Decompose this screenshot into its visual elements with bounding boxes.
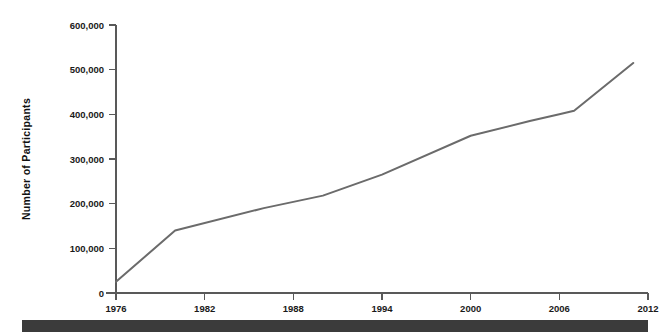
y-tick-label: 300,000	[70, 154, 104, 165]
y-tick-label: 500,000	[70, 64, 104, 75]
x-tick-label: 1988	[283, 303, 304, 314]
y-tick-label: 100,000	[70, 243, 104, 254]
y-axis-title: Number of Participants	[20, 98, 32, 220]
y-tick-label: 200,000	[70, 198, 104, 209]
x-tick-label: 1994	[371, 303, 393, 314]
x-tick-label: 1976	[105, 303, 126, 314]
x-tick-label: 2000	[460, 303, 481, 314]
chart-container: 0100,000200,000300,000400,000500,000600,…	[0, 0, 670, 334]
series-line-participants	[116, 63, 633, 282]
footer-bar	[22, 320, 648, 332]
x-tick-label: 2012	[637, 303, 658, 314]
x-axis: 1976198219881994200020062012	[105, 293, 658, 314]
y-tick-label: 400,000	[70, 109, 104, 120]
x-tick-label: 2006	[549, 303, 570, 314]
y-tick-label: 600,000	[70, 20, 104, 31]
y-axis: 0100,000200,000300,000400,000500,000600,…	[70, 20, 116, 299]
y-tick-label: 0	[99, 288, 104, 299]
data-series-group	[116, 63, 633, 282]
line-chart: 0100,000200,000300,000400,000500,000600,…	[0, 0, 670, 334]
y-axis-title-text: Number of Participants	[20, 98, 32, 220]
x-tick-label: 1982	[194, 303, 215, 314]
